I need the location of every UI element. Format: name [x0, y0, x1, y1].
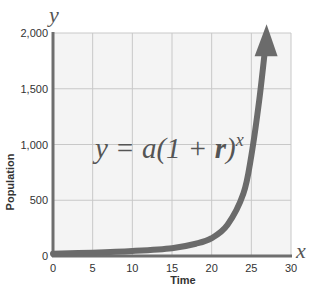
exponential-growth-chart: 05001,0001,5002,000 051015202530 y x Tim… — [0, 0, 313, 291]
y-tick-label: 1,000 — [20, 139, 48, 151]
y-tick-label: 500 — [30, 194, 48, 206]
y-tick-labels: 05001,0001,5002,000 — [20, 27, 48, 262]
equation-label: y = a(1 + r)x — [92, 130, 244, 165]
x-tick-label: 10 — [126, 262, 138, 274]
x-tick-label: 30 — [285, 262, 297, 274]
y-tick-label: 0 — [42, 250, 48, 262]
x-axis-letter: x — [295, 238, 306, 263]
x-axis-label: Time — [170, 274, 195, 286]
y-axis-letter: y — [47, 2, 59, 27]
x-tick-label: 25 — [245, 262, 257, 274]
equation-rparen: ) — [224, 132, 236, 165]
x-tick-labels: 051015202530 — [50, 262, 297, 274]
equation-exponent: x — [235, 130, 244, 150]
x-tick-label: 5 — [90, 262, 96, 274]
x-tick-label: 15 — [166, 262, 178, 274]
equation-lhs: y = a(1 + — [92, 132, 215, 165]
y-tick-label: 2,000 — [20, 27, 48, 39]
x-tick-label: 20 — [206, 262, 218, 274]
equation-r: r — [215, 132, 227, 164]
x-tick-label: 0 — [50, 262, 56, 274]
y-tick-label: 1,500 — [20, 83, 48, 95]
y-axis-label: Population — [4, 153, 16, 210]
